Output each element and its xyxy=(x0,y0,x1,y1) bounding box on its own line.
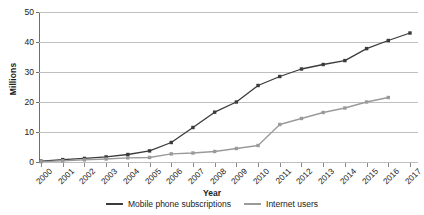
y-tick-label: 40 xyxy=(0,37,34,47)
data-point-marker xyxy=(170,141,173,144)
data-point-marker xyxy=(408,31,411,34)
data-point-marker xyxy=(387,39,390,42)
data-point-marker xyxy=(126,156,129,159)
data-point-marker xyxy=(256,144,259,147)
data-point-marker xyxy=(300,67,303,70)
data-point-marker xyxy=(61,159,64,162)
data-point-marker xyxy=(39,160,42,163)
data-point-marker xyxy=(365,47,368,50)
legend-line-icon xyxy=(244,203,261,205)
data-point-marker xyxy=(148,156,151,159)
data-point-marker xyxy=(83,158,86,161)
legend-label: Internet users xyxy=(266,199,318,209)
data-point-marker xyxy=(278,123,281,126)
data-point-marker xyxy=(104,157,107,160)
plot-area xyxy=(39,12,418,163)
data-point-marker xyxy=(278,75,281,78)
x-axis-title: Year xyxy=(0,188,424,198)
legend-item[interactable]: Internet users xyxy=(244,199,318,209)
data-point-marker xyxy=(343,59,346,62)
y-tick-label: 10 xyxy=(0,127,34,137)
y-tick-label: 30 xyxy=(0,67,34,77)
series-layer xyxy=(39,12,418,163)
data-point-marker xyxy=(235,100,238,103)
legend-label: Mobile phone subscriptions xyxy=(128,199,231,209)
data-point-marker xyxy=(321,63,324,66)
data-point-marker xyxy=(148,149,151,152)
data-point-marker xyxy=(213,150,216,153)
data-point-marker xyxy=(300,117,303,120)
chart-legend: Mobile phone subscriptionsInternet users xyxy=(0,199,424,209)
legend-line-icon xyxy=(106,203,123,205)
y-tick-label: 50 xyxy=(0,7,34,17)
data-point-marker xyxy=(387,96,390,99)
data-point-marker xyxy=(235,147,238,150)
y-tick-label: 0 xyxy=(0,157,34,167)
data-point-marker xyxy=(126,153,129,156)
data-point-marker xyxy=(213,111,216,114)
data-point-marker xyxy=(170,152,173,155)
data-point-marker xyxy=(191,126,194,129)
data-point-marker xyxy=(321,111,324,114)
data-point-marker xyxy=(343,106,346,109)
series-line xyxy=(41,33,410,161)
data-point-marker xyxy=(365,100,368,103)
line-chart: Millions 01020304050 2000200120022003200… xyxy=(0,0,424,215)
data-point-marker xyxy=(191,151,194,154)
y-tick-label: 20 xyxy=(0,97,34,107)
legend-item[interactable]: Mobile phone subscriptions xyxy=(106,199,231,209)
data-point-marker xyxy=(256,84,259,87)
